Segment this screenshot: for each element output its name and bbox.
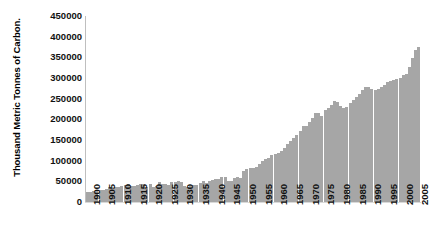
x-axis-tick-label: 1950 [248,184,258,205]
x-axis-tick-label: 1945 [232,184,242,205]
x-axis-tick-label: 1940 [217,184,227,205]
y-axis-tick-label: 0 [22,197,82,207]
x-axis-tick-label: 1905 [107,184,117,205]
x-axis-tick-label: 1990 [373,184,383,205]
plot-area [86,16,421,202]
bar-chart: Thousand Metric Tonnes of Carbon. 450000… [0,0,431,248]
y-axis-tick-label: 250000 [22,94,82,104]
y-axis-tick-labels: 4500004000003500003000002500002000001500… [18,0,82,248]
y-axis-tick-label: 350000 [22,53,82,63]
y-axis-tick-label: 100000 [22,156,82,166]
x-axis-tick-label: 1900 [92,184,102,205]
x-axis-tick-label: 1930 [185,184,195,205]
x-axis-tick-label: 1995 [389,184,399,205]
y-axis-tick-label: 400000 [22,32,82,42]
x-axis-tick-label: 2000 [405,184,415,205]
y-axis-tick-label: 150000 [22,135,82,145]
y-axis-tick-label: 450000 [22,11,82,21]
x-axis-tick-labels: 1900190519101915192019251930193519401945… [86,203,421,248]
x-axis-tick-label: 1915 [139,184,149,205]
x-axis-tick-label: 1985 [358,184,368,205]
y-axis-tick-label: 300000 [22,73,82,83]
x-axis-tick-label: 1975 [326,184,336,205]
bar-series [86,16,421,202]
x-axis-tick-label: 1920 [154,184,164,205]
x-axis-tick-label: 1980 [342,184,352,205]
x-axis-tick-label: 1935 [201,184,211,205]
x-axis-tick-label: 1910 [123,184,133,205]
bar [417,47,420,202]
x-axis-tick-label: 1960 [279,184,289,205]
y-axis-tick-label: 50000 [22,177,82,187]
x-axis-tick-label: 1965 [295,184,305,205]
x-axis-tick-label: 2005 [420,184,430,205]
x-axis-tick-label: 1925 [170,184,180,205]
x-axis-tick-label: 1970 [311,184,321,205]
x-axis-tick-label: 1955 [264,184,274,205]
y-axis-tick-label: 200000 [22,115,82,125]
